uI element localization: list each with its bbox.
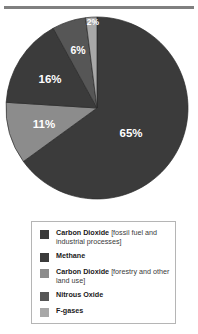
pie-chart-svg: 65%11%16%6%2%: [0, 12, 198, 210]
legend-item[interactable]: Nitrous Oxide: [39, 290, 170, 302]
legend-label-bold: Methane: [56, 251, 85, 260]
legend-swatch-co2-fossil: [39, 229, 50, 240]
legend-label-bold: Carbon Dioxide: [56, 228, 111, 237]
legend-swatch-methane: [39, 252, 50, 263]
pie-slice-data-label: 65%: [119, 127, 142, 139]
legend-label-bold: Carbon Dioxide: [56, 267, 111, 276]
legend-item-label: Carbon Dioxide [forestry and other land …: [56, 267, 170, 286]
legend-item-label: Carbon Dioxide [fossil fuel and industri…: [56, 228, 170, 247]
pie-slice-data-label: 2%: [87, 17, 100, 27]
legend-item-label: Methane: [56, 251, 85, 260]
chart-legend: Carbon Dioxide [fossil fuel and industri…: [31, 221, 176, 324]
pie-slice-group: [6, 17, 188, 199]
legend-item-label: F-gases: [56, 306, 83, 315]
legend-swatch-co2-forestry: [39, 268, 50, 279]
legend-swatch-nitrous-oxide: [39, 291, 50, 302]
legend-item[interactable]: Methane: [39, 251, 170, 263]
legend-item-label: Nitrous Oxide: [56, 290, 103, 299]
legend-swatch-f-gases: [39, 307, 50, 318]
legend-label-bold: F-gases: [56, 306, 83, 315]
legend-item[interactable]: F-gases: [39, 306, 170, 318]
pie-slice-data-label: 16%: [38, 73, 61, 85]
legend-item[interactable]: Carbon Dioxide [forestry and other land …: [39, 267, 170, 286]
pie-slice-data-label: 11%: [33, 118, 55, 130]
pie-chart-area: 65%11%16%6%2%: [0, 12, 198, 210]
top-divider-rule: [4, 6, 194, 9]
pie-slice-data-label: 6%: [70, 44, 86, 56]
legend-item[interactable]: Carbon Dioxide [fossil fuel and industri…: [39, 228, 170, 247]
legend-label-bold: Nitrous Oxide: [56, 290, 103, 299]
